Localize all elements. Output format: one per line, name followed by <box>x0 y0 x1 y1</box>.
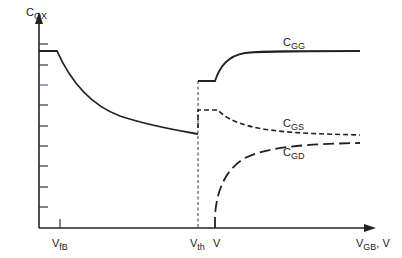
cgg-label: C <box>283 36 291 48</box>
svg-text:COX: COX <box>26 6 47 21</box>
svg-text:Vth: Vth <box>190 237 205 252</box>
svg-text:CGD: CGD <box>283 146 305 161</box>
cgg-curve-left <box>39 51 198 134</box>
y-axis-label: C <box>26 6 34 18</box>
capacitance-chart: COX VfB Vth V VGB, V CGG CGS CGD <box>0 0 402 258</box>
svg-text:CGG: CGG <box>283 36 305 51</box>
cgg-curve-right <box>198 51 360 81</box>
x-axis-arrow-icon <box>364 224 376 232</box>
cgd-label: C <box>283 146 291 158</box>
svg-text:CGS: CGS <box>283 117 304 132</box>
y-ticks <box>39 44 48 207</box>
v-label: V <box>213 237 221 249</box>
cgs-label: C <box>283 117 291 129</box>
cgs-curve <box>198 110 360 135</box>
svg-text:VfB: VfB <box>52 237 68 252</box>
svg-text:VGB, V: VGB, V <box>356 237 390 252</box>
